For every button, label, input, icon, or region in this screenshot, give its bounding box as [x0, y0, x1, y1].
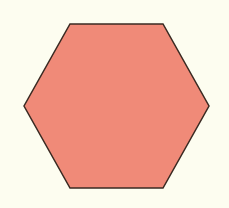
diagram-svg	[0, 0, 229, 208]
diagram-canvas	[0, 0, 229, 208]
